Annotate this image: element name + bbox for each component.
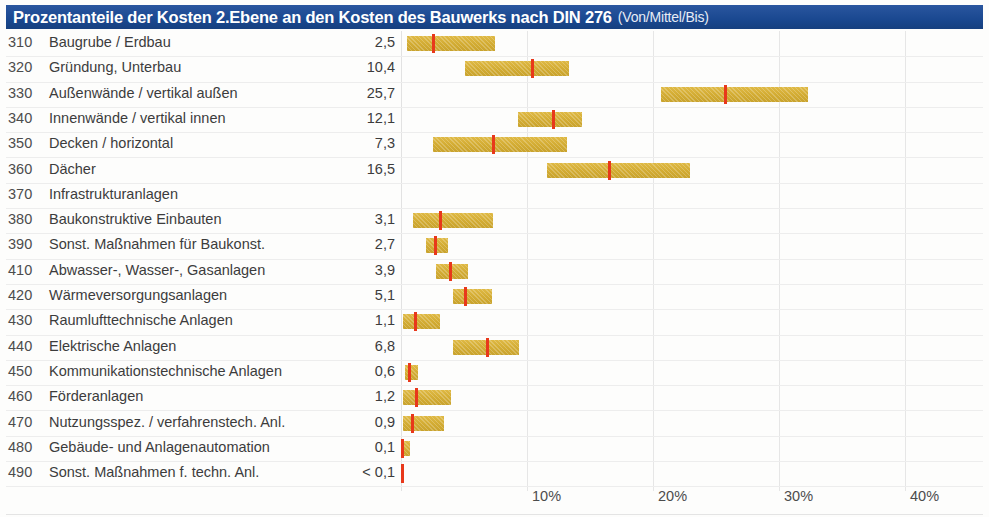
- row-label: Baukonstruktive Einbauten: [49, 211, 222, 227]
- row-code: 340: [8, 110, 46, 126]
- table-row[interactable]: 460Förderanlagen1,2: [0, 385, 989, 411]
- mean-marker: [411, 414, 414, 433]
- row-label: Kommunikationstechnische Anlagen: [49, 363, 282, 379]
- row-value-mittel: 3,1: [250, 211, 395, 227]
- row-label: Baugrube / Erdbau: [49, 34, 171, 50]
- table-row[interactable]: 370Infrastrukturanlagen: [0, 183, 989, 209]
- row-value-mittel: 5,1: [250, 287, 395, 303]
- range-bar: [403, 416, 444, 431]
- row-label: Elektrische Anlagen: [49, 338, 176, 354]
- range-bar: [433, 137, 568, 152]
- row-label: Decken / horizontal: [49, 135, 173, 151]
- mean-marker: [414, 312, 417, 331]
- range-bar: [547, 163, 689, 178]
- row-label: Dächer: [49, 161, 96, 177]
- row-code: 360: [8, 161, 46, 177]
- mean-marker: [401, 439, 404, 458]
- mean-marker: [531, 59, 534, 78]
- row-value-mittel: 0,9: [250, 414, 395, 430]
- table-row[interactable]: 350Decken / horizontal7,3: [0, 132, 989, 158]
- mean-marker: [408, 363, 411, 382]
- axis-bottom-rule: [6, 514, 983, 515]
- row-code: 420: [8, 287, 46, 303]
- range-bar: [407, 36, 495, 51]
- table-row[interactable]: 480Gebäude- und Anlagenautomation0,1: [0, 436, 989, 462]
- row-value-mittel: 1,2: [250, 388, 395, 404]
- row-label: Innenwände / vertikal innen: [49, 110, 226, 126]
- axis-top-rule: [6, 486, 983, 487]
- axis-tick-label: 10%: [532, 488, 561, 504]
- table-row[interactable]: 340Innenwände / vertikal innen12,1: [0, 107, 989, 133]
- table-row[interactable]: 390Sonst. Maßnahmen für Baukonst.2,7: [0, 233, 989, 259]
- row-value-mittel: 2,7: [250, 236, 395, 252]
- row-label: Förderanlagen: [49, 388, 143, 404]
- axis-tick-label: 30%: [784, 488, 813, 504]
- row-label: Abwasser-, Wasser-, Gasanlagen: [49, 262, 265, 278]
- row-value-mittel: 7,3: [250, 135, 395, 151]
- table-row[interactable]: 430Raumlufttechnische Anlagen1,1: [0, 309, 989, 335]
- mean-marker: [492, 135, 495, 154]
- row-value-mittel: < 0,1: [250, 464, 395, 480]
- table-row[interactable]: 310Baugrube / Erdbau2,5: [0, 31, 989, 57]
- row-code: 470: [8, 414, 46, 430]
- row-value-mittel: 12,1: [250, 110, 395, 126]
- row-code: 410: [8, 262, 46, 278]
- range-bar: [403, 390, 452, 405]
- table-row[interactable]: 320Gründung, Unterbau10,4: [0, 56, 989, 82]
- row-code: 450: [8, 363, 46, 379]
- table-row[interactable]: 490Sonst. Maßnahmen f. techn. Anl.< 0,1: [0, 461, 989, 487]
- row-code: 390: [8, 236, 46, 252]
- mean-marker: [449, 262, 452, 281]
- mean-marker: [439, 211, 442, 230]
- row-label: Gebäude- und Anlagenautomation: [49, 439, 270, 455]
- row-code: 440: [8, 338, 46, 354]
- row-value-mittel: 0,1: [250, 439, 395, 455]
- mean-marker: [608, 161, 611, 180]
- row-code: 330: [8, 85, 46, 101]
- axis-tick-label: 20%: [658, 488, 687, 504]
- row-code: 320: [8, 59, 46, 75]
- row-code: 430: [8, 312, 46, 328]
- row-value-mittel: 1,1: [250, 312, 395, 328]
- row-code: 380: [8, 211, 46, 227]
- mean-marker: [401, 464, 404, 483]
- axis-tick-label: 40%: [910, 488, 939, 504]
- row-code: 310: [8, 34, 46, 50]
- mean-marker: [552, 110, 555, 129]
- range-bar: [518, 112, 582, 127]
- range-bar: [453, 289, 492, 304]
- row-value-mittel: 3,9: [250, 262, 395, 278]
- range-bar: [403, 314, 440, 329]
- mean-marker: [464, 287, 467, 306]
- table-row[interactable]: 470Nutzungsspez. / verfahrenstech. Anl.0…: [0, 411, 989, 437]
- chart-page: Prozentanteile der Kosten 2.Ebene an den…: [0, 0, 989, 517]
- range-bar: [661, 87, 808, 102]
- page-subtitle: (Von/Mittel/Bis): [618, 9, 709, 25]
- table-row[interactable]: 330Außenwände / vertikal außen25,7: [0, 82, 989, 108]
- row-value-mittel: 2,5: [250, 34, 395, 50]
- table-row[interactable]: 450Kommunikationstechnische Anlagen0,6: [0, 360, 989, 386]
- table-row[interactable]: 360Dächer16,5: [0, 158, 989, 184]
- row-label: Sonst. Maßnahmen f. techn. Anl.: [49, 464, 259, 480]
- table-row[interactable]: 380Baukonstruktive Einbauten3,1: [0, 208, 989, 234]
- row-code: 480: [8, 439, 46, 455]
- row-code: 460: [8, 388, 46, 404]
- chart-header: Prozentanteile der Kosten 2.Ebene an den…: [6, 5, 983, 29]
- row-code: 370: [8, 186, 46, 202]
- row-label: Gründung, Unterbau: [49, 59, 181, 75]
- page-title: Prozentanteile der Kosten 2.Ebene an den…: [13, 8, 612, 27]
- table-row[interactable]: 420Wärmeversorgungsanlagen5,1: [0, 284, 989, 310]
- row-value-mittel: 10,4: [250, 59, 395, 75]
- mean-marker: [724, 85, 727, 104]
- row-label: Raumlufttechnische Anlagen: [49, 312, 233, 328]
- mean-marker: [432, 34, 435, 53]
- row-label: Sonst. Maßnahmen für Baukonst.: [49, 236, 265, 252]
- table-row[interactable]: 440Elektrische Anlagen6,8: [0, 335, 989, 361]
- row-value-mittel: 25,7: [250, 85, 395, 101]
- row-value-mittel: 16,5: [250, 161, 395, 177]
- row-value-mittel: 0,6: [250, 363, 395, 379]
- table-row[interactable]: 410Abwasser-, Wasser-, Gasanlagen3,9: [0, 259, 989, 285]
- range-bar: [413, 213, 493, 228]
- row-code: 490: [8, 464, 46, 480]
- row-code: 350: [8, 135, 46, 151]
